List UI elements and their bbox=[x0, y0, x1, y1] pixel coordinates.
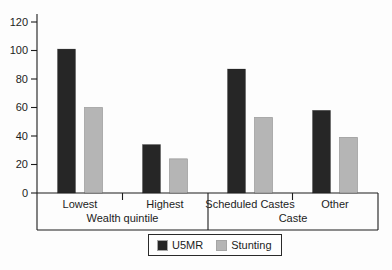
category-label-scheduled-castes: Scheduled Castes bbox=[205, 198, 295, 210]
y-tick-label-120: 120 bbox=[10, 16, 28, 28]
legend: U5MR Stunting bbox=[148, 234, 282, 256]
legend-swatch-stunting bbox=[217, 241, 226, 250]
y-tick-label-80: 80 bbox=[16, 73, 28, 85]
bar-u5mr-scheduled-castes bbox=[228, 69, 246, 193]
y-tick-label-60: 60 bbox=[16, 101, 28, 113]
category-label-highest: Highest bbox=[146, 198, 183, 210]
legend-swatch-u5mr bbox=[158, 241, 167, 250]
bar-u5mr-other bbox=[313, 110, 331, 193]
group-label-wealth-quintile: Wealth quintile bbox=[87, 212, 159, 224]
bar-u5mr-lowest bbox=[58, 49, 76, 193]
bar-stunting-other bbox=[340, 137, 358, 193]
y-tick-label-20: 20 bbox=[16, 158, 28, 170]
bar-stunting-highest bbox=[170, 159, 188, 193]
bar-u5mr-highest bbox=[143, 145, 161, 193]
y-tick-label-40: 40 bbox=[16, 130, 28, 142]
legend-label-stunting: Stunting bbox=[231, 239, 271, 251]
category-label-other: Other bbox=[321, 198, 349, 210]
bar-stunting-scheduled-castes bbox=[255, 117, 273, 193]
legend-label-u5mr: U5MR bbox=[172, 239, 203, 251]
y-tick-label-100: 100 bbox=[10, 44, 28, 56]
y-tick-label-0: 0 bbox=[22, 187, 28, 199]
bar-stunting-lowest bbox=[85, 108, 103, 194]
legend-item-stunting: Stunting bbox=[217, 239, 271, 251]
group-label-caste: Caste bbox=[279, 212, 308, 224]
chart-canvas: 020406080100120LowestHighestScheduled Ca… bbox=[0, 0, 392, 270]
bar-chart: 020406080100120LowestHighestScheduled Ca… bbox=[0, 0, 392, 270]
legend-item-u5mr: U5MR bbox=[158, 239, 203, 251]
category-label-lowest: Lowest bbox=[63, 198, 98, 210]
